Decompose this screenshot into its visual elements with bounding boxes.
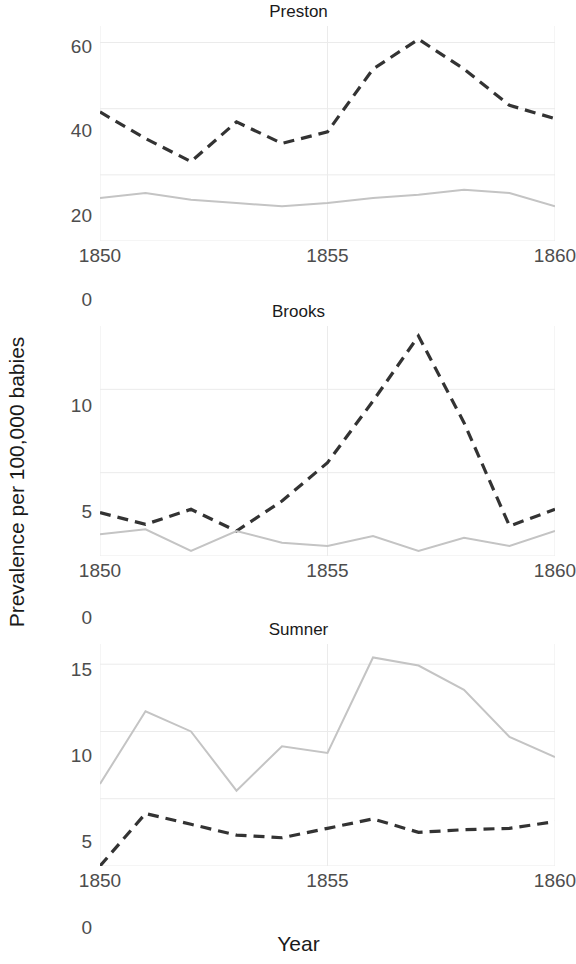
plot-wrapper-brooks: 0510 185018551860 [34, 326, 563, 618]
plot-wrapper-preston: 0204060 185018551860 [34, 26, 563, 300]
x-tick-label: 1860 [534, 870, 576, 892]
plot-svg-preston [100, 26, 555, 241]
x-tick-label: 1855 [306, 870, 348, 892]
y-tick-label: 20 [71, 205, 92, 227]
y-tick-label: 60 [71, 36, 92, 58]
x-axis-title: Year [34, 928, 563, 960]
x-tick-label: 1860 [534, 245, 576, 267]
y-tick-label: 5 [81, 831, 92, 853]
x-tick-labels-sumner: 185018551860 [100, 870, 555, 900]
y-axis-title: Prevalence per 100,000 babies [0, 0, 34, 964]
x-tick-labels-brooks: 185018551860 [100, 560, 555, 590]
y-tick-label: 40 [71, 120, 92, 142]
y-tick-label: 10 [71, 395, 92, 417]
y-tick-label: 5 [81, 501, 92, 523]
x-tick-label: 1850 [79, 560, 121, 582]
x-tick-label: 1855 [306, 560, 348, 582]
x-tick-label: 1850 [79, 870, 121, 892]
plot-area-preston [100, 26, 555, 241]
plot-wrapper-sumner: 051015 185018551860 [34, 644, 563, 928]
panel-sumner: Sumner 051015 185018551860 [34, 618, 563, 928]
x-tick-label: 1855 [306, 245, 348, 267]
x-tick-labels-preston: 185018551860 [100, 245, 555, 275]
plot-area-sumner [100, 644, 555, 866]
plot-area-brooks [100, 326, 555, 556]
panel-title-preston: Preston [34, 2, 563, 22]
panel-title-sumner: Sumner [34, 620, 563, 640]
panel-brooks: Brooks 0510 185018551860 [34, 300, 563, 618]
plot-svg-brooks [100, 326, 555, 556]
plot-svg-sumner [100, 644, 555, 866]
x-tick-label: 1860 [534, 560, 576, 582]
x-tick-label: 1850 [79, 245, 121, 267]
panel-preston: Preston 0204060 185018551860 [34, 0, 563, 300]
y-tick-label: 15 [71, 659, 92, 681]
panel-title-brooks: Brooks [34, 302, 563, 322]
y-tick-label: 10 [71, 745, 92, 767]
